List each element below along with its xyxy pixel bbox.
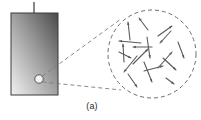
sample-region-marker [35, 75, 43, 83]
figure-canvas [0, 0, 201, 120]
figure-container: (a) [0, 0, 201, 120]
